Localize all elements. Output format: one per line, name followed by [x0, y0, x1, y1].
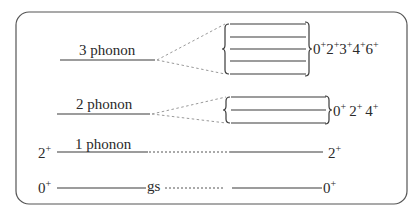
left-brace-3-phonon	[222, 24, 229, 74]
level-1-phonon: 2+ 1 phonon 2+	[38, 136, 342, 161]
left-brace-2-phonon	[223, 97, 230, 123]
spins-3-phonon: 0+2+3+4+6+	[313, 39, 379, 57]
right-brace-2-phonon	[325, 96, 332, 124]
spin-left-gs: 0+	[38, 178, 52, 196]
level-ground-state: 0+ gs 0+	[38, 178, 337, 196]
level-3-phonon: 3 phonon 0+2+3+4+6+	[60, 22, 379, 76]
fan-line-upper	[157, 24, 225, 60]
fan-line-lower	[152, 114, 226, 123]
spin-right-gs: 0+	[323, 178, 337, 196]
label-1-phonon: 1 phonon	[75, 136, 132, 152]
spin-right-1-phonon: 2+	[328, 143, 342, 161]
spins-2-phonon: 0+2+4+	[333, 101, 379, 119]
spin-left-1-phonon: 2+	[38, 143, 52, 161]
level-2-phonon: 2 phonon 0+2+4+	[57, 96, 379, 124]
right-brace-3-phonon	[305, 22, 312, 76]
fan-line-lower	[157, 60, 225, 74]
fan-line-upper	[152, 97, 226, 114]
label-2-phonon: 2 phonon	[76, 96, 133, 112]
label-gs: gs	[147, 178, 161, 194]
label-3-phonon: 3 phonon	[79, 42, 136, 58]
phonon-level-diagram: 3 phonon 0+2+3+4+6+ 2 phonon 0+2+4+	[0, 0, 420, 213]
